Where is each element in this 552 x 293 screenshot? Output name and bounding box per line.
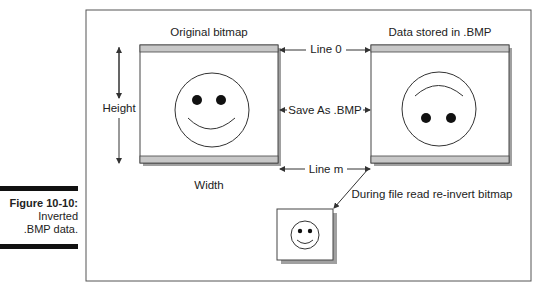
height-label: Height: [102, 102, 136, 114]
right-box-title: Data stored in .BMP: [389, 26, 492, 38]
width-label: Width: [194, 179, 223, 191]
reinvert-label: During file read re-invert bitmap: [351, 188, 512, 200]
linem-label: Line m: [309, 163, 344, 175]
save-as-label: Save As .BMP: [288, 104, 362, 116]
left-box-title: Original bitmap: [170, 26, 247, 38]
bmp-data-box: [371, 45, 512, 166]
reinverted-bitmap-box: [277, 209, 337, 264]
bitmap-diagram: Original bitmap Data stored in .BMP Heig…: [0, 0, 552, 293]
original-bitmap-box: [140, 45, 281, 166]
line0-label: Line 0: [310, 43, 341, 55]
